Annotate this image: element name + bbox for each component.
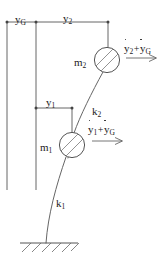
label-v1-term1: y [88, 124, 94, 135]
label-k2-base: k [92, 105, 98, 117]
label-v2-plus: + [133, 43, 140, 54]
label-y1-base: y [46, 96, 52, 108]
label-m1-base: m [40, 141, 49, 153]
label-ground-displacement: yG [15, 14, 26, 25]
mass-spring-diagram: yG y2 y1 k2 k1 m2 m1 y2+yG y1+yG [0, 0, 163, 264]
mass1-body [57, 129, 88, 160]
label-lower-velocity: y1+yG [88, 124, 115, 135]
label-upper-mass: m2 [74, 57, 86, 68]
label-k1-sub: 1 [62, 202, 66, 211]
dimension-tick-group [6, 21, 110, 110]
label-v2-term2-sub: G [145, 47, 150, 56]
label-v1-term1-base: y [88, 123, 94, 135]
dimension-tick [35, 21, 38, 24]
label-upper-velocity: y2+yG [124, 43, 151, 54]
dimension-tick [6, 21, 9, 24]
mass2-body [92, 44, 123, 75]
label-y1-sub: 1 [52, 101, 56, 110]
label-y2-sub: 2 [69, 17, 73, 26]
dimension-tick [35, 107, 38, 110]
label-yG-base: y [15, 13, 21, 25]
label-k2-sub: 2 [98, 110, 102, 119]
dimension-tick [71, 107, 74, 110]
label-v2-term1: y [124, 43, 130, 54]
mass2-circle [94, 47, 119, 72]
dimension-tick [107, 21, 110, 24]
label-upper-stiffness: k2 [92, 106, 101, 117]
mass1-circle [59, 132, 84, 157]
diagram-canvas [0, 0, 163, 264]
label-k1-base: k [56, 197, 62, 209]
label-top-displacement: y2 [63, 13, 72, 24]
label-m1-sub: 1 [49, 146, 53, 155]
label-y2-base: y [63, 12, 69, 24]
overdot-icon [140, 39, 142, 41]
label-lower-stiffness: k1 [56, 198, 65, 209]
label-v1-term1-sub: 1 [94, 128, 98, 137]
ground-hatch [22, 243, 79, 252]
label-v2-term1-base: y [124, 42, 130, 54]
label-lower-mass: m1 [40, 142, 52, 153]
label-yG-sub: G [21, 18, 26, 27]
label-m2-base: m [74, 56, 83, 68]
overdot-icon [104, 120, 106, 122]
label-v2-term1-sub: 2 [130, 47, 134, 56]
ground-support [20, 243, 79, 252]
label-v1-plus: + [97, 124, 104, 135]
label-m2-sub: 2 [83, 61, 87, 70]
label-v1-term2-sub: G [109, 128, 114, 137]
label-mid-displacement: y1 [46, 97, 55, 108]
